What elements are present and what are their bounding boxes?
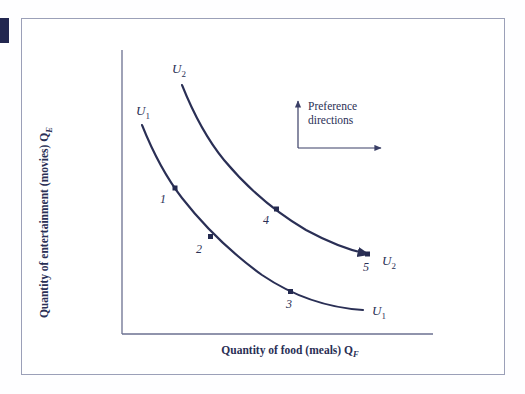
point-label-1: 1 xyxy=(160,193,166,205)
x-axis-title: Quantity of food (meals) QF xyxy=(150,344,430,359)
y-axis-variable-subscript: E xyxy=(44,127,54,133)
point-marker-1 xyxy=(173,186,178,191)
point-label-3: 3 xyxy=(286,298,292,310)
point-marker-2 xyxy=(208,234,213,239)
y-axis-title-text: Quantity of entertainment (movies) xyxy=(38,145,50,318)
preference-directions-line2: directions xyxy=(308,113,357,127)
curve-label-u1-end: U1 xyxy=(372,304,386,321)
point-label-4: 4 xyxy=(263,214,269,226)
point-marker-5 xyxy=(365,252,370,257)
preference-directions-annotation: Preference directions xyxy=(308,99,357,128)
figure-page: Quantity of entertainment (movies) QE Qu… xyxy=(0,0,525,394)
point-marker-4 xyxy=(274,207,279,212)
x-axis-variable: Q xyxy=(344,344,353,356)
x-axis-variable-subscript: F xyxy=(353,349,359,359)
indifference-curve-plot xyxy=(0,0,525,394)
curve-label-u2-start: U2 xyxy=(172,62,186,79)
x-axis-title-text: Quantity of food (meals) xyxy=(221,344,341,356)
y-axis-title: Quantity of entertainment (movies) QE xyxy=(38,98,53,348)
y-axis-variable: Q xyxy=(38,133,50,142)
indifference-curve-u1 xyxy=(142,125,363,310)
curve-label-u2-end: U2 xyxy=(382,254,396,271)
point-label-2: 2 xyxy=(196,243,202,255)
point-marker-3 xyxy=(288,289,293,294)
preference-directions-line1: Preference xyxy=(308,99,357,113)
point-label-5: 5 xyxy=(363,261,369,273)
curve-label-u1-start: U1 xyxy=(136,104,150,121)
